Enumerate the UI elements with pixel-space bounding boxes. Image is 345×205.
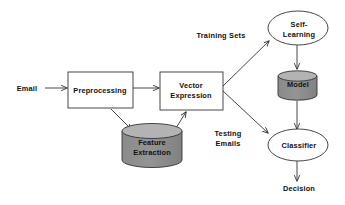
flowchart-diagram: Email Preprocessing Vector Expression Fe… [0, 0, 345, 205]
edge-label-training-sets: Training Sets [191, 31, 251, 41]
node-vector-expression [160, 72, 223, 110]
edge-vector-to-self-learning [223, 41, 269, 86]
edge-preprocessing-to-feature [111, 109, 131, 129]
node-preprocessing [68, 72, 133, 108]
edge-label-testing-emails: Testing Emails [206, 129, 250, 149]
edge-vector-to-classifier [223, 91, 268, 133]
node-classifier [268, 129, 328, 161]
node-feature-extraction [122, 124, 182, 168]
edge-feature-to-vector [176, 112, 186, 128]
node-self-learning [268, 11, 328, 45]
node-model [278, 71, 317, 100]
diagram-shapes-layer [0, 0, 345, 205]
